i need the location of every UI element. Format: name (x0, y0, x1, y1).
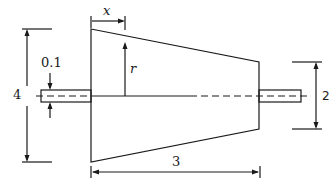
arrowhead-01-up (48, 102, 53, 109)
label-shaft-diameter: 0.1 (41, 56, 62, 69)
arrowhead-4-down (25, 155, 30, 162)
label-left-diameter: 4 (13, 88, 21, 101)
arrowhead-2-up (314, 62, 319, 69)
label-length: 3 (172, 155, 180, 168)
rotor-diagram (0, 0, 335, 185)
arrowhead-2-down (314, 122, 319, 129)
label-right-diameter: 2 (322, 90, 330, 102)
arrowhead-3-right (252, 170, 259, 175)
arrowhead-r-up (123, 42, 128, 49)
arrowhead-01-down (48, 83, 53, 90)
arrowhead-x-right (118, 19, 125, 24)
arrowhead-4-up (25, 29, 30, 36)
arrowhead-3-left (92, 170, 99, 175)
label-r: r (130, 62, 136, 75)
label-x: x (103, 4, 110, 17)
